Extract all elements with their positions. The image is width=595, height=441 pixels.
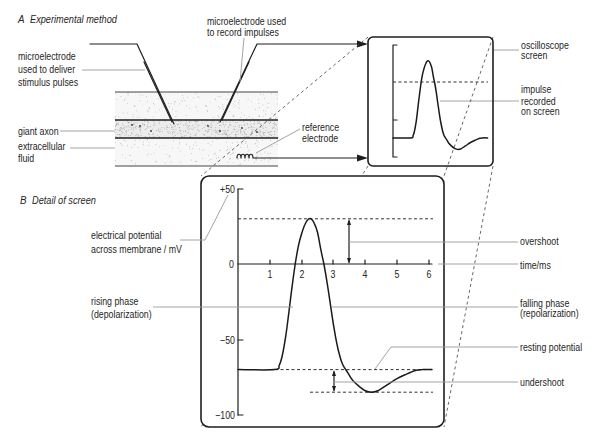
oscilloscope-frame [368, 37, 493, 166]
x-tick-6: 6 [427, 268, 432, 280]
label-rising-phase-1: rising phase [91, 295, 139, 307]
x-tick-3: 3 [331, 268, 336, 280]
label-overshoot: overshoot [520, 235, 559, 247]
label-rising-phase-2: (depolarization) [91, 308, 152, 320]
y-tick-minus50: −50 [220, 334, 235, 346]
x-tick-5: 5 [395, 268, 400, 280]
x-tick-1: 1 [268, 268, 273, 280]
y-tick-plus50: +50 [220, 183, 235, 195]
label-time-axis: time/ms [520, 259, 551, 271]
x-tick-2: 2 [300, 268, 305, 280]
label-giant-axon: giant axon [18, 125, 59, 137]
label-falling-phase-2: (repolarization) [520, 307, 579, 319]
giant-axon-region [115, 120, 278, 138]
label-impulse-3: on screen [521, 105, 560, 117]
tissue-preparation [115, 92, 279, 166]
label-oscilloscope-2: screen [521, 49, 547, 61]
label-extracellular-2: fluid [18, 152, 34, 164]
label-stim-electrode-3: stimulus pulses [18, 76, 78, 88]
oscilloscope-screen [368, 37, 493, 166]
x-tick-4: 4 [363, 268, 368, 280]
mini-y-axis [393, 45, 397, 157]
label-impulse-1: impulse [521, 83, 552, 95]
panel-b-letter: B [20, 193, 27, 206]
label-stim-electrode-2: used to deliver [18, 63, 76, 75]
label-resting-potential: resting potential [520, 341, 582, 353]
panel-b: B Detail of screen +50 0 −50 −100 1 2 3 … [20, 176, 582, 427]
panel-a: A Experimental method [17, 12, 569, 166]
label-stim-electrode-1: microelectrode [18, 50, 76, 62]
label-y-axis-2: across membrane / mV [91, 243, 182, 255]
figure-canvas: A Experimental method [0, 0, 595, 441]
y-tick-minus100: −100 [215, 409, 235, 421]
panel-a-title: Experimental method [30, 13, 118, 25]
mini-impulse-trace [393, 61, 488, 150]
label-record-electrode-2: to record impulses [207, 26, 279, 38]
arrow-right-icon [357, 155, 368, 162]
action-potential-figure: A Experimental method [0, 0, 595, 441]
label-extracellular-1: extracellular [18, 140, 66, 152]
panel-b-title: Detail of screen [32, 194, 96, 206]
y-tick-0: 0 [229, 258, 234, 270]
label-reference-2: electrode [302, 132, 339, 144]
label-undershoot: undershoot [520, 376, 564, 388]
panel-a-letter: A [17, 12, 24, 25]
label-y-axis-1: electrical potential [91, 229, 161, 241]
